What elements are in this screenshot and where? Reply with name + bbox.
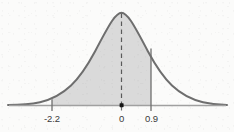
- normal-curve-figure: -2.2 0 0.9: [0, 0, 234, 132]
- tick-label-left: -2.2: [44, 113, 60, 124]
- normal-distribution-chart: -2.2 0 0.9: [0, 0, 234, 132]
- tick-label-center: 0: [119, 113, 124, 124]
- tick-label-right: 0.9: [145, 113, 158, 124]
- mean-point-marker: [120, 103, 124, 107]
